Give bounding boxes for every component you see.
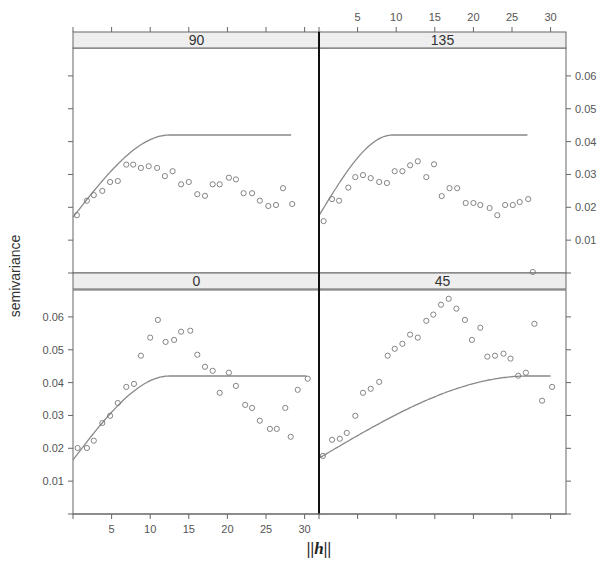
panel-frame-45 — [319, 290, 566, 514]
x-tick-label-top: 10 — [390, 11, 402, 23]
y-tick-label: 0.01 — [43, 475, 64, 487]
x-tick-label: 20 — [221, 523, 233, 535]
x-tick-label-top: 20 — [467, 11, 479, 23]
y-tick-label-right: 0.01 — [575, 234, 596, 246]
x-tick-label-top: 25 — [506, 11, 518, 23]
strip-label-45: 45 — [435, 273, 451, 289]
y-tick-label: 0.04 — [43, 377, 64, 389]
x-axis-title: ||h|| — [307, 539, 331, 558]
y-tick-label-right: 0.02 — [575, 201, 596, 213]
strip-label-135: 135 — [431, 32, 455, 48]
variogram-chart: 90135045 51015202530510152025300.010.020… — [0, 0, 607, 582]
y-tick-label-right: 0.03 — [575, 168, 596, 180]
panel-frame-0 — [73, 290, 320, 514]
y-tick-label-right: 0.05 — [575, 103, 596, 115]
x-tick-label-top: 5 — [355, 11, 361, 23]
y-tick-label-right: 0.04 — [575, 136, 596, 148]
x-tick-label: 15 — [183, 523, 195, 535]
x-tick-label-top: 15 — [429, 11, 441, 23]
x-tick-label: 5 — [109, 523, 115, 535]
y-tick-label: 0.02 — [43, 442, 64, 454]
y-axis-title: semivariance — [7, 235, 23, 318]
x-tick-label: 30 — [298, 523, 310, 535]
panel-frame-90 — [73, 48, 320, 273]
y-tick-label: 0.06 — [43, 311, 64, 323]
y-tick-label: 0.03 — [43, 409, 64, 421]
chart-canvas: 90135045 51015202530510152025300.010.020… — [0, 0, 607, 582]
y-tick-label-right: 0.06 — [575, 70, 596, 82]
strip-label-0: 0 — [193, 273, 201, 289]
x-tick-label-top: 30 — [544, 11, 556, 23]
x-tick-label: 25 — [260, 523, 272, 535]
strip-label-90: 90 — [189, 32, 205, 48]
x-tick-label: 10 — [144, 523, 156, 535]
y-tick-label: 0.05 — [43, 344, 64, 356]
